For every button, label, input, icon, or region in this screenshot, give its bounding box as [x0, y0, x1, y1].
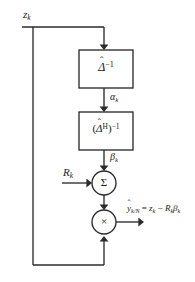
input-signal-label: zk: [23, 9, 31, 22]
multiply-glyph: ×: [92, 216, 116, 227]
alpha-signal-label: αk: [110, 92, 118, 104]
output-equation-label: ˆyk/N = zk − Rkβk: [127, 204, 180, 214]
diagram-canvas: [0, 0, 195, 282]
beta-signal-label: βk: [110, 152, 118, 164]
block-delta-h-inv-label: (ˆΔH)−1: [79, 123, 133, 134]
block-delta-inv-label: ˆΔ−1: [79, 61, 133, 73]
sigma-glyph: Σ: [92, 177, 116, 188]
rk-input-label: Rk: [63, 167, 73, 180]
block-diagram: zk ˆΔ−1 αk (ˆΔH)−1 βk Rk Σ × ˆyk/N = zk …: [0, 0, 195, 282]
